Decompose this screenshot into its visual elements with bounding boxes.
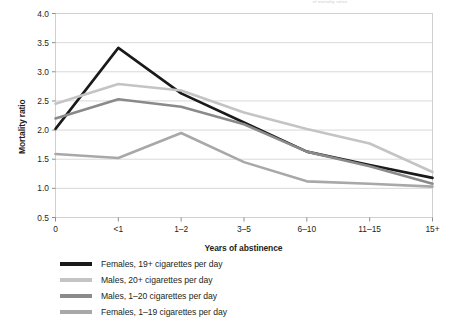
plot-frame	[56, 14, 433, 218]
x-tick-label: 1–2	[174, 224, 188, 234]
y-tick-labels: 0.51.01.52.02.53.03.54.0	[37, 9, 49, 223]
legend-item-label: Males, 20+ cigarettes per day	[101, 275, 213, 285]
legend-color-swatch	[60, 262, 92, 265]
line-chart-svg: 0.51.01.52.02.53.03.54.0 0<11–23–56–1011…	[0, 0, 451, 250]
series-lines-group	[56, 48, 433, 187]
chart-legend: Females, 19+ cigarettes per dayMales, 20…	[60, 256, 390, 320]
figure-container: of mortality ratios 0.51.01.52.02.53.03.…	[0, 0, 451, 331]
x-tick-label: <1	[114, 224, 124, 234]
y-tick-label: 1.0	[37, 183, 49, 193]
legend-item: Males, 20+ cigarettes per day	[60, 272, 390, 288]
gridlines-group	[56, 14, 433, 218]
plot-border	[56, 14, 433, 218]
legend-color-swatch	[60, 294, 92, 297]
x-axis-title: Years of abstinence	[55, 243, 432, 253]
x-tick-label: 11–15	[358, 224, 381, 234]
x-tick-labels: 0<11–23–56–1011–1515+	[53, 224, 440, 234]
y-tick-label: 1.5	[37, 154, 49, 164]
y-tick-label: 4.0	[37, 9, 49, 19]
y-tick-label: 2.0	[37, 125, 49, 135]
legend-item-label: Females, 19+ cigarettes per day	[101, 259, 222, 269]
y-tick-label: 0.5	[37, 213, 49, 223]
legend-item-label: Males, 1–20 cigarettes per day	[101, 291, 217, 301]
x-tick-label: 6–10	[298, 224, 317, 234]
legend-color-swatch	[60, 310, 92, 313]
legend-item-label: Females, 1–19 cigarettes per day	[101, 307, 227, 317]
y-tick-label: 2.5	[37, 96, 49, 106]
x-tick-label: 3–5	[237, 224, 251, 234]
y-axis-title: Mortality ratio	[14, 72, 30, 182]
legend-color-swatch	[60, 278, 92, 281]
y-tick-label: 3.5	[37, 38, 49, 48]
x-tick-marks	[56, 218, 433, 222]
chart-plot-area: 0.51.01.52.02.53.03.54.0 0<11–23–56–1011…	[0, 0, 451, 250]
y-tick-label: 3.0	[37, 67, 49, 77]
legend-item: Males, 1–20 cigarettes per day	[60, 288, 390, 304]
series-line	[56, 133, 433, 187]
x-tick-label: 0	[53, 224, 58, 234]
legend-item: Females, 19+ cigarettes per day	[60, 256, 390, 272]
y-tick-marks	[52, 14, 56, 218]
x-tick-label: 15+	[425, 224, 439, 234]
legend-item: Females, 1–19 cigarettes per day	[60, 304, 390, 320]
